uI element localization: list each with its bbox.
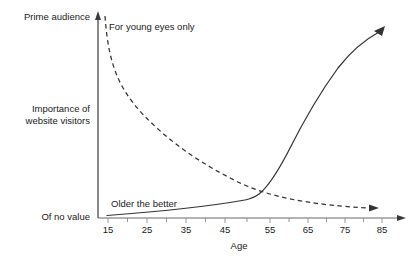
x-tick-label-75: 75: [332, 224, 358, 235]
x-tick-label-25: 25: [134, 224, 160, 235]
y-axis-label-top: Prime audience: [0, 11, 90, 23]
x-axis-title: Age: [219, 240, 259, 251]
series-older-the-better: [107, 26, 385, 216]
y-axis-label-bottom: Of no value: [0, 211, 90, 223]
x-axis-ticks: [108, 218, 382, 223]
x-tick-label-15: 15: [95, 224, 121, 235]
chart-canvas: Prime audience Importance of website vis…: [0, 0, 414, 262]
y-axis: [95, 11, 101, 218]
annotation-for-young-eyes-only: For young eyes only: [109, 21, 195, 32]
annotation-older-the-better: Older the better: [111, 198, 177, 209]
chart-plot-area: [0, 0, 414, 262]
x-tick-label-45: 45: [212, 224, 238, 235]
x-tick-label-55: 55: [257, 224, 283, 235]
y-axis-label-middle: Importance of website visitors: [0, 103, 90, 126]
x-tick-label-85: 85: [369, 224, 395, 235]
x-axis: [98, 215, 406, 221]
x-tick-label-35: 35: [173, 224, 199, 235]
series-for-young-eyes-only: [105, 16, 379, 212]
x-tick-label-65: 65: [295, 224, 321, 235]
